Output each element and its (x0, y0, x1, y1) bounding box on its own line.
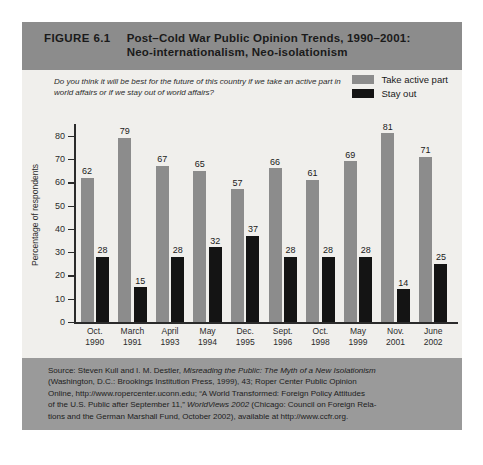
bar: 37 (246, 236, 259, 322)
y-tick-mark (68, 206, 74, 207)
figure-title: Post–Cold War Public Opinion Trends, 199… (127, 31, 411, 59)
y-tick-mark (68, 322, 74, 323)
bar-value-label: 15 (135, 276, 145, 286)
y-tick-mark (68, 182, 74, 183)
source-line-5: tions and the German Marshall Fund, Octo… (48, 411, 436, 423)
legend-label-stay-out: Stay out (381, 88, 416, 99)
bar-group: 6728 (151, 124, 189, 322)
source-line-4: of the U.S. Public after September 11,” … (48, 399, 436, 411)
bar-value-label: 67 (157, 154, 167, 164)
bar-value-label: 65 (195, 159, 205, 169)
chart-legend: Take active part Stay out (352, 74, 448, 102)
y-tick-label: 10 (55, 294, 65, 304)
bar-group: 7915 (114, 124, 152, 322)
axes: 01020304050607080 6228791567286532573766… (74, 124, 452, 322)
legend-swatch-black-icon (352, 89, 374, 98)
y-tick-label: 40 (55, 224, 65, 234)
bar: 65 (193, 171, 206, 322)
bar: 79 (118, 138, 131, 322)
bar: 25 (434, 264, 447, 322)
bar-value-label: 66 (270, 157, 280, 167)
x-tick-label: Sept.1996 (264, 326, 302, 348)
bar: 81 (381, 133, 394, 322)
figure-header: FIGURE 6.1 Post–Cold War Public Opinion … (22, 22, 462, 70)
y-tick-mark (68, 159, 74, 160)
y-tick-label: 0 (60, 317, 65, 327)
source-line-2: (Washington, D.C.: Brookings Institution… (48, 376, 436, 388)
bar-value-label: 61 (308, 168, 318, 178)
x-tick-label: April1993 (151, 326, 189, 348)
bar-value-label: 28 (323, 245, 333, 255)
bar-value-label: 71 (420, 145, 430, 155)
survey-question: Do you think it will be best for the fut… (54, 76, 344, 98)
legend-swatch-gray-icon (352, 75, 374, 84)
bar-value-label: 28 (173, 245, 183, 255)
bar-group: 8114 (377, 124, 415, 322)
bar-value-label: 81 (383, 122, 393, 132)
bar: 28 (322, 257, 335, 322)
figure-title-line2: Neo-internationalism, Neo-isolationism (127, 45, 411, 59)
legend-item-take-active-part: Take active part (352, 74, 448, 85)
bar-series-container: 6228791567286532573766286128692881147125 (76, 124, 452, 322)
x-tick-label: March1991 (114, 326, 152, 348)
x-tick-label: May1994 (189, 326, 227, 348)
bar-value-label: 28 (286, 245, 296, 255)
bar: 67 (156, 166, 169, 322)
legend-label-take-active-part: Take active part (381, 74, 448, 85)
bar-value-label: 14 (398, 278, 408, 288)
chart-plot-area: Percentage of respondents 01020304050607… (22, 110, 462, 378)
bar-value-label: 79 (120, 126, 130, 136)
y-tick-label: 60 (55, 177, 65, 187)
source-note: Source: Steven Kull and I. M. Destler, M… (22, 358, 462, 431)
y-tick-mark (68, 275, 74, 276)
y-tick-label: 80 (55, 131, 65, 141)
bar: 62 (81, 178, 94, 322)
legend-item-stay-out: Stay out (352, 88, 448, 99)
question-legend-row: Do you think it will be best for the fut… (22, 70, 462, 110)
y-tick-mark (68, 252, 74, 253)
y-axis-title: Percentage of respondents (28, 110, 42, 320)
bar-value-label: 32 (210, 236, 220, 246)
figure-title-line1: Post–Cold War Public Opinion Trends, 199… (127, 31, 411, 45)
bar: 28 (359, 257, 372, 322)
bar: 66 (269, 168, 282, 322)
y-tick-label: 30 (55, 247, 65, 257)
x-tick-label: Dec.1995 (226, 326, 264, 348)
bar: 15 (134, 287, 147, 322)
bar-value-label: 37 (248, 224, 258, 234)
bar: 28 (284, 257, 297, 322)
bar-value-label: 25 (436, 252, 446, 262)
bar-group: 6532 (189, 124, 227, 322)
bar-group: 6928 (339, 124, 377, 322)
bar: 69 (344, 161, 357, 322)
x-tick-label: Oct.1998 (302, 326, 340, 348)
bar: 28 (171, 257, 184, 322)
bar-group: 6628 (264, 124, 302, 322)
x-tick-label: June2002 (414, 326, 452, 348)
bar-group: 6128 (302, 124, 340, 322)
figure-container: FIGURE 6.1 Post–Cold War Public Opinion … (22, 22, 462, 430)
bar-value-label: 62 (82, 166, 92, 176)
bar: 71 (419, 157, 432, 322)
y-tick-mark (68, 299, 74, 300)
y-tick-mark (68, 229, 74, 230)
x-tick-label: Nov.2001 (377, 326, 415, 348)
y-tick-label: 20 (55, 270, 65, 280)
source-line-1: Source: Steven Kull and I. M. Destler, M… (48, 365, 436, 377)
bar-value-label: 28 (361, 245, 371, 255)
source-line-3: Online, http://www.ropercenter.uconn.edu… (48, 388, 436, 400)
bar: 28 (96, 257, 109, 322)
y-tick-label: 50 (55, 201, 65, 211)
x-axis-line (74, 322, 458, 324)
x-axis-labels: Oct.1990March1991April1993May1994Dec.199… (76, 326, 452, 348)
bar-group: 5737 (226, 124, 264, 322)
bar: 14 (397, 289, 410, 322)
y-axis-title-text: Percentage of respondents (30, 164, 40, 266)
bar-value-label: 57 (232, 178, 242, 188)
x-tick-label: May1999 (339, 326, 377, 348)
bar-value-label: 69 (345, 150, 355, 160)
bar-value-label: 28 (98, 245, 108, 255)
bar: 61 (306, 180, 319, 322)
figure-number: FIGURE 6.1 (44, 31, 127, 45)
x-tick-label: Oct.1990 (76, 326, 114, 348)
